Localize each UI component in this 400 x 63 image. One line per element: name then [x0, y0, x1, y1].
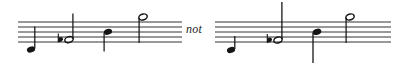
note-2-left — [58, 14, 74, 44]
note-3-right — [312, 28, 322, 63]
flat-accidental-icon — [267, 34, 272, 43]
note-4-left — [138, 13, 148, 43]
note-4-right — [345, 13, 355, 43]
note-1-left — [26, 27, 36, 54]
note-2-right — [267, 2, 283, 44]
flat-accidental-icon — [58, 34, 63, 43]
music-notation-figure: not — [0, 0, 400, 63]
staff-right — [215, 2, 391, 63]
note-1-right — [226, 36, 236, 54]
staff-left — [18, 13, 182, 54]
connector-label-not: not — [186, 23, 202, 35]
staff-lines-left — [18, 22, 182, 42]
note-3-left — [103, 28, 113, 52]
staff-lines-right — [215, 22, 391, 42]
